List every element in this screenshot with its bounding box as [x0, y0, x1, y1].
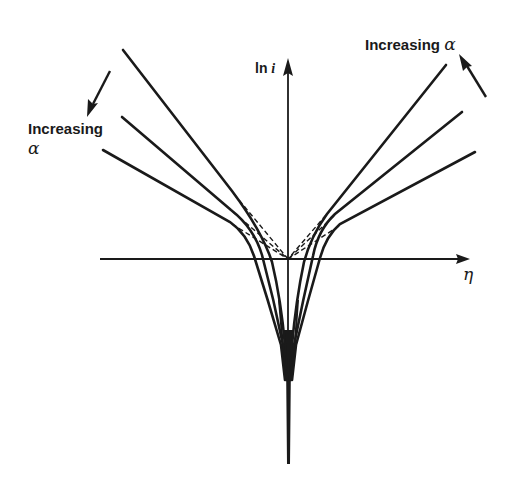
left-increasing-arrow: [87, 71, 110, 117]
right-increasing-arrow: [459, 54, 486, 97]
right-increasing-label: Increasing α: [365, 36, 456, 53]
left-increasing-label: Increasing: [28, 121, 103, 136]
ln-i-prefix: ln: [255, 60, 271, 76]
ln-i-var: i: [271, 61, 275, 76]
eta-axis-arrow-icon: [456, 254, 470, 264]
anodic-curve-3: [292, 152, 475, 380]
eta-axis: [100, 254, 470, 264]
arrow-down-left-icon: [87, 99, 98, 117]
anodic-branches: [290, 65, 475, 380]
arrow-up-left-icon: [459, 54, 472, 71]
right-alpha-symbol: α: [444, 34, 455, 54]
cathodic-curve-1: [123, 50, 287, 380]
cathodic-curve-3: [103, 150, 285, 380]
anodic-curve-1: [290, 65, 446, 380]
left-alpha-symbol: α: [28, 140, 39, 157]
right-increasing-text: Increasing: [365, 36, 444, 53]
cathodic-branches: [103, 50, 287, 380]
ln-i-axis-label: ln i: [255, 61, 275, 76]
eta-axis-label: η: [463, 266, 473, 283]
